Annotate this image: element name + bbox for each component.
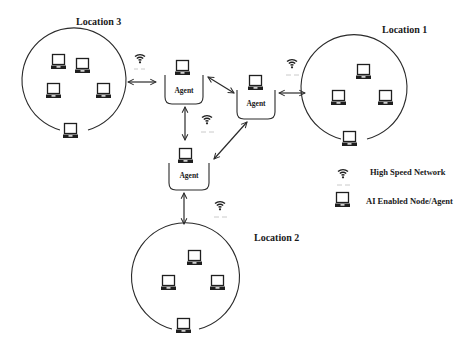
laptop-icon <box>335 193 350 208</box>
network-marker <box>201 116 214 132</box>
laptop-icon <box>342 132 357 147</box>
location-2-label: Location 2 <box>254 232 299 243</box>
laptop-icon <box>331 91 346 106</box>
location-1-cluster: Location 1 <box>301 24 427 146</box>
laptop-icon <box>210 276 225 291</box>
laptop-icon <box>161 276 176 291</box>
wifi-icon <box>287 60 297 69</box>
legend: High Speed Network AI Enabled Node/Agent <box>335 167 453 207</box>
agent-label: Agent <box>179 171 199 180</box>
legend-item-agent: AI Enabled Node/Agent <box>335 193 453 208</box>
laptop-icon <box>378 91 393 106</box>
laptop-icon <box>175 61 190 76</box>
location-1-ring <box>301 35 407 139</box>
network-marker <box>286 60 299 75</box>
link-agent-agent-top <box>208 77 234 93</box>
agent-label: Agent <box>246 99 266 108</box>
laptop-icon <box>187 251 202 266</box>
agent-top-right: Agent <box>237 76 275 120</box>
laptop-icon <box>63 124 78 139</box>
location-1-label: Location 1 <box>382 24 427 35</box>
agent-label: Agent <box>174 86 194 95</box>
location-2-cluster: Location 2 <box>132 223 300 333</box>
agent-top-left: Agent <box>165 61 203 105</box>
legend-label: High Speed Network <box>370 167 446 177</box>
wifi-icon <box>215 202 225 211</box>
legend-label: AI Enabled Node/Agent <box>366 196 453 206</box>
location-3-label: Location 3 <box>76 16 121 27</box>
laptop-icon <box>46 84 61 99</box>
legend-item-network: High Speed Network <box>337 167 446 185</box>
network-marker <box>134 55 145 69</box>
laptop-icon <box>356 65 371 80</box>
laptop-icon <box>51 55 66 70</box>
laptop-icon <box>176 319 191 334</box>
laptop-icon <box>96 84 111 99</box>
network-diagram: Location 3 Location 1 Location 2 Agent A… <box>0 0 468 352</box>
wifi-icon <box>135 55 145 64</box>
location-3-ring <box>22 28 126 130</box>
laptop-icon <box>248 76 263 91</box>
link-agent-agent-diagonal <box>214 122 247 159</box>
laptop-icon <box>75 59 90 74</box>
laptop-icon <box>178 149 193 164</box>
location-3-cluster: Location 3 <box>22 16 126 138</box>
wifi-icon <box>338 170 348 179</box>
agent-bottom: Agent <box>169 149 209 191</box>
network-marker <box>214 202 227 217</box>
wifi-icon <box>202 116 212 125</box>
